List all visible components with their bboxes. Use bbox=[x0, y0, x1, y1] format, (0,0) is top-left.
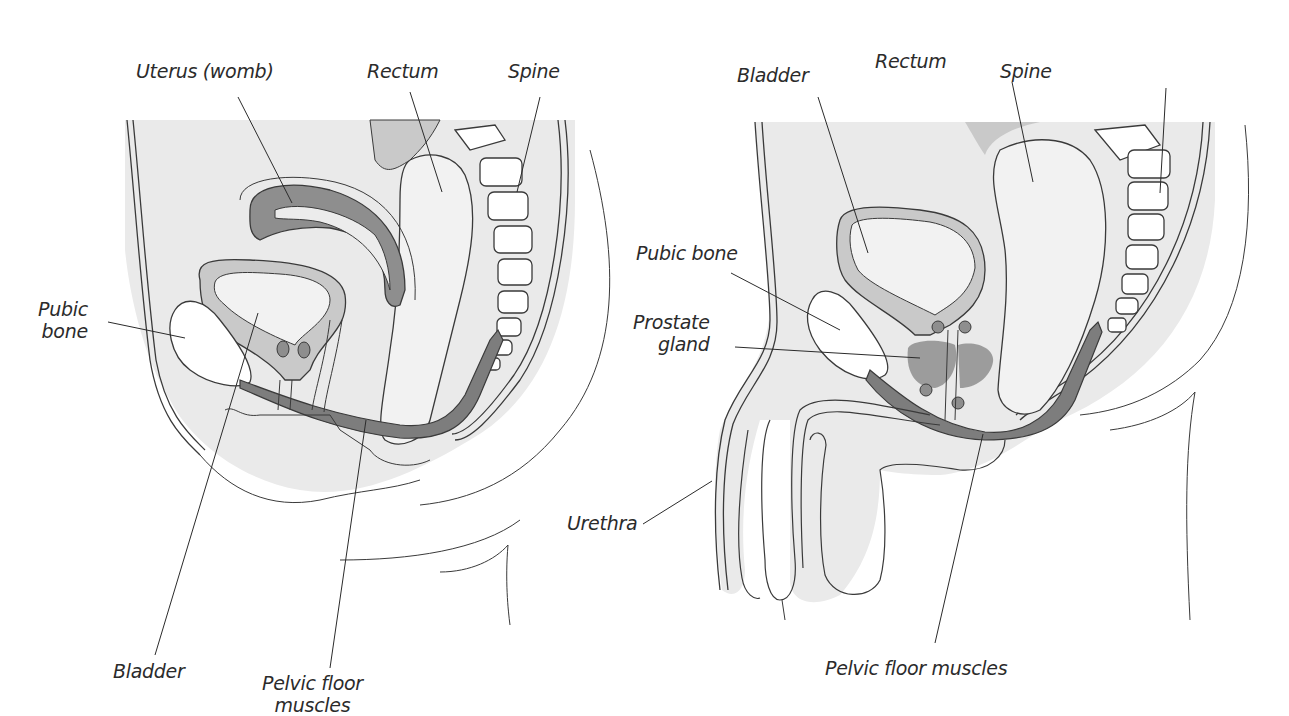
label-prostate-line2: gland bbox=[633, 333, 710, 355]
label-pelvic-floor-female-line1: Pelvic floor bbox=[262, 672, 363, 694]
label-bladder-female: Bladder bbox=[113, 660, 184, 682]
label-urethra: Urethra bbox=[567, 512, 637, 534]
label-uterus: Uterus (womb) bbox=[136, 60, 274, 82]
label-rectum-male: Rectum bbox=[875, 50, 947, 72]
label-bladder-male: Bladder bbox=[737, 64, 808, 86]
label-pubic-bone-female-line1: Pubic bbox=[38, 298, 88, 320]
label-pelvic-floor-female: Pelvic floor muscles bbox=[262, 672, 363, 716]
label-pubic-bone-female-line2: bone bbox=[38, 320, 88, 342]
label-prostate-gland: Prostate gland bbox=[633, 311, 710, 355]
label-pubic-bone-male: Pubic bone bbox=[636, 242, 738, 264]
label-spine-male: Spine bbox=[1000, 60, 1052, 82]
female-pelvis-section bbox=[125, 120, 610, 625]
label-rectum-female: Rectum bbox=[367, 60, 439, 82]
label-pubic-bone-female: Pubic bone bbox=[38, 298, 88, 342]
label-spine-female: Spine bbox=[508, 60, 560, 82]
label-pelvic-floor-male: Pelvic floor muscles bbox=[825, 657, 1007, 679]
label-pelvic-floor-female-line2: muscles bbox=[262, 694, 363, 716]
label-prostate-line1: Prostate bbox=[633, 311, 710, 333]
male-pelvis-section bbox=[715, 122, 1248, 620]
